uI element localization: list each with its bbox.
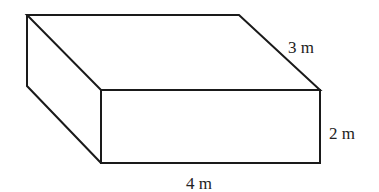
width-label: 3 m <box>288 38 314 57</box>
height-label: 2 m <box>329 124 355 143</box>
top-face <box>27 15 320 90</box>
front-face <box>101 90 320 163</box>
prism-edges <box>27 15 320 163</box>
length-label: 4 m <box>186 174 212 192</box>
left-side-face <box>27 15 101 163</box>
rectangular-prism-diagram: 3 m 2 m 4 m <box>0 0 379 192</box>
